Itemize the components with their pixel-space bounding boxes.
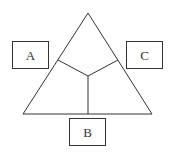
box-b-label: B (83, 125, 92, 140)
box-c-label: C (140, 48, 149, 63)
divider-left (58, 60, 88, 76)
box-c: C (127, 42, 163, 69)
triangle-diagram: A C B (0, 0, 173, 155)
box-a: A (13, 42, 49, 69)
box-b: B (70, 119, 106, 146)
box-a-label: A (26, 48, 36, 63)
divider-right (88, 60, 118, 76)
